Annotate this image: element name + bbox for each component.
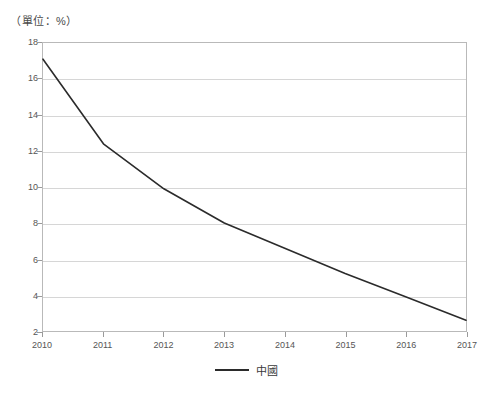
y-tick-label: 14 (4, 110, 38, 120)
y-tick-label: 6 (4, 255, 38, 265)
y-tick-label: 10 (4, 182, 38, 192)
x-tick-label: 2017 (457, 340, 477, 350)
y-tick-label: 12 (4, 146, 38, 156)
legend-line-swatch (215, 369, 249, 371)
x-tick-mark (406, 332, 407, 337)
unit-annotation: （單位：%） (10, 12, 78, 28)
legend-entry: 中國 (215, 362, 279, 378)
line-chart-canvas (43, 43, 466, 331)
x-tick-label: 2012 (153, 340, 173, 350)
x-tick-mark (467, 332, 468, 337)
y-tick-label: 4 (4, 291, 38, 301)
x-tick-mark (285, 332, 286, 337)
x-tick-label: 2010 (32, 340, 52, 350)
x-tick-label: 2014 (275, 340, 295, 350)
y-tick-label: 2 (4, 327, 38, 337)
y-tick-label: 18 (4, 37, 38, 47)
series-line-china (43, 59, 466, 320)
y-tick-label: 16 (4, 73, 38, 83)
x-tick-label: 2011 (93, 340, 112, 350)
x-tick-mark (42, 332, 43, 337)
x-tick-mark (346, 332, 347, 337)
x-tick-mark (224, 332, 225, 337)
x-tick-label: 2013 (214, 340, 234, 350)
x-tick-label: 2015 (336, 340, 356, 350)
legend-label: 中國 (256, 362, 279, 378)
chart-legend: 中國 (0, 362, 493, 378)
plot-area (42, 42, 467, 332)
x-tick-label: 2016 (396, 340, 416, 350)
y-tick-label: 8 (4, 218, 38, 228)
x-axis-labels: 20102011201220132014201520162017 (42, 340, 467, 354)
x-tick-mark (103, 332, 104, 337)
x-tick-mark (163, 332, 164, 337)
y-axis-labels: 24681012141618 (0, 42, 38, 332)
